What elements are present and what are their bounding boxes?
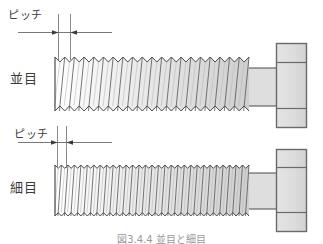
thread-pitch-diagram [0,0,323,244]
coarse-bolt-shank [246,68,278,106]
fine-bolt-head [277,150,307,232]
fine-thread-label: 細目 [10,177,38,196]
coarse-thread-label: 並目 [10,68,38,87]
figure-caption: 図3.4.4 並目と細目 [0,233,323,244]
pitch-label-fine: ピッチ [14,125,49,141]
fine-thread-body [55,165,249,216]
fine-bolt-shank [246,173,278,209]
coarse-thread-body [55,57,249,111]
coarse-bolt-head [277,44,307,128]
pitch-label-coarse: ピッチ [8,6,43,22]
